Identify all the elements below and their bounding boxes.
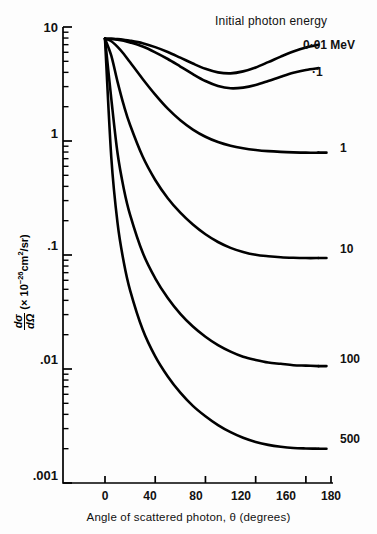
x-tick-label-180: 180 <box>317 489 345 503</box>
x-axis-title: Angle of scattered photon, θ (degrees) <box>0 511 377 523</box>
legend-title: Initial photon energy <box>215 14 327 28</box>
curve-label-10-mev: 10 <box>340 242 353 256</box>
y-axis-units-close: /sr) <box>18 234 30 251</box>
curve-label-500-mev: 500 <box>340 432 360 446</box>
curve-label-100-mev: 100 <box>340 352 360 366</box>
x-tick-label-40: 40 <box>136 489 164 503</box>
y-axis-units-cm: cm <box>18 256 30 272</box>
curve-label-1-mev: 1 <box>340 141 347 155</box>
curve-0p1-mev <box>105 39 318 89</box>
x-tick-label-80: 80 <box>182 489 210 503</box>
x-tick-label-120: 120 <box>227 489 255 503</box>
y-tick-label-10: 10 <box>22 20 58 35</box>
curve-label-leaders <box>318 153 326 449</box>
x-tick-marks <box>105 476 331 483</box>
x-tick-label-160: 160 <box>272 489 300 503</box>
chart-plot-area <box>0 0 377 534</box>
y-axis-units-open: (× 10 <box>18 284 30 309</box>
y-axis-units-square: 2 <box>16 251 25 255</box>
curve-label-0-1-mev: ·1 <box>312 65 323 79</box>
y-tick-label-0.01: .01 <box>18 352 58 367</box>
curve-label-0-01-mev: 0·01 MeV <box>303 38 355 52</box>
y-axis-fraction-denominator: dΩ <box>25 313 36 330</box>
y-tick-label-1: 1 <box>22 126 58 141</box>
x-tick-label-0: 0 <box>91 489 119 503</box>
y-tick-marks <box>63 27 72 483</box>
curve-500-mev <box>105 39 318 449</box>
chart-figure: 10 1 .1 .01 .001 0 40 80 120 160 180 Ang… <box>0 0 377 534</box>
y-axis-fraction: dσ dΩ <box>13 313 36 330</box>
curve-1-mev <box>105 39 318 153</box>
y-axis-title: dσ dΩ (× 10−26cm2/sr) <box>13 234 36 330</box>
y-tick-label-0.001: .001 <box>14 468 58 483</box>
y-axis-units-exponent: −26 <box>16 272 25 285</box>
curve-group <box>105 39 318 449</box>
axis-frame <box>63 27 333 483</box>
